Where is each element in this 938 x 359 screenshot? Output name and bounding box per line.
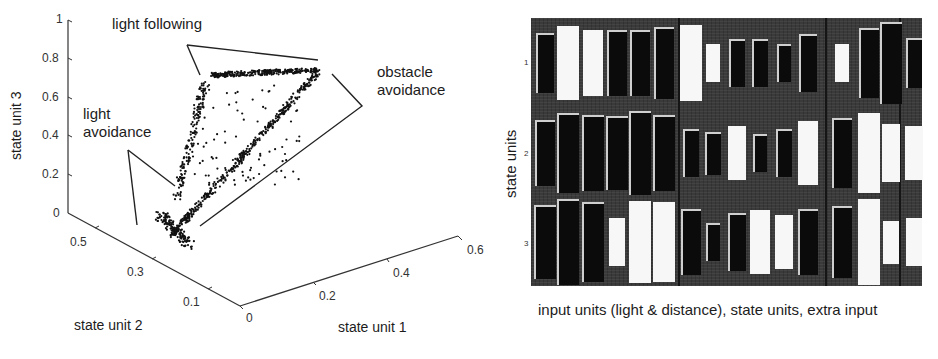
- z-tick-0: 0: [53, 207, 60, 219]
- z-tick-08: 0.8: [42, 52, 59, 64]
- hinton-block: [882, 124, 900, 182]
- hinton-block: [905, 126, 922, 180]
- hinton-block: [536, 33, 555, 94]
- hinton-block: [776, 129, 792, 176]
- z-tick-1: 1: [56, 13, 63, 25]
- annotation-light-avoid-line1: light: [83, 106, 111, 121]
- hinton-block: [858, 199, 880, 285]
- y-axis-label: state unit 2: [74, 318, 143, 332]
- hinton-block: [609, 218, 625, 265]
- hinton-block: [653, 202, 675, 281]
- hinton-block: [835, 44, 850, 82]
- hinton-block: [859, 28, 879, 97]
- hinton-block: [706, 223, 721, 261]
- hinton-block: [705, 132, 720, 175]
- hinton-block: [583, 30, 603, 97]
- hinton-block: [654, 27, 675, 99]
- row-tick-1: 1: [524, 59, 528, 67]
- z-tick-02: 0.2: [42, 168, 59, 180]
- scatter-3d-plot: [0, 0, 500, 359]
- hinton-block: [557, 113, 579, 192]
- hinton-block: [683, 129, 699, 176]
- hinton-block: [858, 113, 880, 192]
- hinton-block: [629, 111, 651, 195]
- y-tick-03: 0.3: [127, 266, 144, 278]
- hinton-block: [681, 209, 701, 276]
- hinton-block: [607, 30, 627, 97]
- z-axis-label: state unit 3: [9, 92, 23, 161]
- x-tick-04: 0.4: [393, 267, 410, 279]
- y-tick-05: 0.5: [70, 236, 87, 248]
- hinton-block: [535, 120, 555, 187]
- y-tick-01: 0.1: [183, 296, 200, 308]
- annotation-obstacle-line1: obstacle: [377, 64, 433, 79]
- hinton-block: [606, 116, 627, 190]
- hinton-block: [832, 118, 852, 187]
- hinton-block: [799, 34, 817, 92]
- hinton-block: [753, 134, 768, 172]
- hinton-y-label: state units: [503, 130, 518, 198]
- hinton-block: [629, 201, 651, 283]
- annotation-obstacle-line2: avoidance: [377, 82, 445, 97]
- row-tick-2: 2: [524, 150, 528, 158]
- hinton-block: [798, 209, 818, 276]
- hinton-block: [557, 199, 579, 285]
- hinton-block: [750, 210, 769, 274]
- hinton-block: [728, 213, 746, 271]
- hinton-caption: input units (light & distance), state un…: [538, 302, 877, 317]
- hinton-block: [728, 126, 745, 180]
- hinton-block: [653, 115, 674, 192]
- scatter-points: [155, 67, 321, 250]
- z-tick-04: 0.4: [42, 129, 59, 141]
- x-tick-02: 0.2: [319, 290, 336, 302]
- hinton-block: [582, 202, 604, 281]
- x-axis-label: state unit 1: [338, 320, 407, 334]
- hinton-block: [883, 221, 898, 264]
- group-divider-input-types: [825, 18, 827, 286]
- hinton-block: [680, 25, 701, 102]
- hinton-block: [534, 205, 555, 279]
- hinton-block: [880, 22, 902, 104]
- x-tick-0: 0: [246, 312, 253, 324]
- hinton-block: [582, 115, 603, 192]
- hinton-block: [832, 206, 853, 278]
- hinton-block: [775, 215, 792, 269]
- hinton-block: [777, 44, 792, 82]
- hinton-block: [906, 218, 922, 265]
- hinton-block: [557, 26, 578, 100]
- z-tick-06: 0.6: [42, 91, 59, 103]
- hinton-block: [706, 44, 721, 82]
- x-tick-06: 0.6: [467, 244, 484, 256]
- hinton-block: [630, 30, 650, 97]
- hinton-diagram: [531, 18, 922, 286]
- hinton-block: [752, 39, 768, 86]
- row-tick-3: 3: [524, 240, 528, 248]
- hinton-block: [798, 121, 817, 185]
- hinton-block: [906, 38, 923, 89]
- hinton-block: [729, 39, 745, 86]
- annotation-light-avoid-line2: avoidance: [83, 124, 151, 139]
- annotation-light-following: light following: [112, 16, 202, 31]
